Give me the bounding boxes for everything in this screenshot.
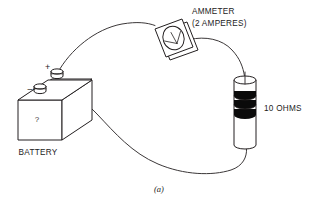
battery-label: BATTERY bbox=[19, 148, 58, 157]
resistor-value-label: 10 OHMS bbox=[264, 104, 302, 113]
battery-negative-symbol: – bbox=[28, 84, 33, 94]
wire-ammeter-to-resistor bbox=[190, 38, 245, 76]
resistor-component bbox=[234, 72, 256, 149]
battery-positive-symbol: + bbox=[45, 62, 50, 72]
circuit-diagram: – + ? bbox=[0, 0, 318, 208]
figure-container: – + ? bbox=[0, 0, 318, 208]
ammeter-rating-label: (2 AMPERES) bbox=[192, 19, 247, 28]
resistor-band-3 bbox=[234, 109, 256, 119]
battery-positive-terminal bbox=[51, 69, 63, 79]
figure-caption: (a) bbox=[154, 184, 164, 194]
wire-battery-to-ammeter bbox=[58, 23, 156, 73]
ammeter-title-label: AMMETER bbox=[192, 7, 235, 16]
battery-face-marking: ? bbox=[35, 115, 40, 124]
battery-front-face bbox=[18, 100, 62, 140]
battery-component: – + ? bbox=[18, 62, 92, 140]
